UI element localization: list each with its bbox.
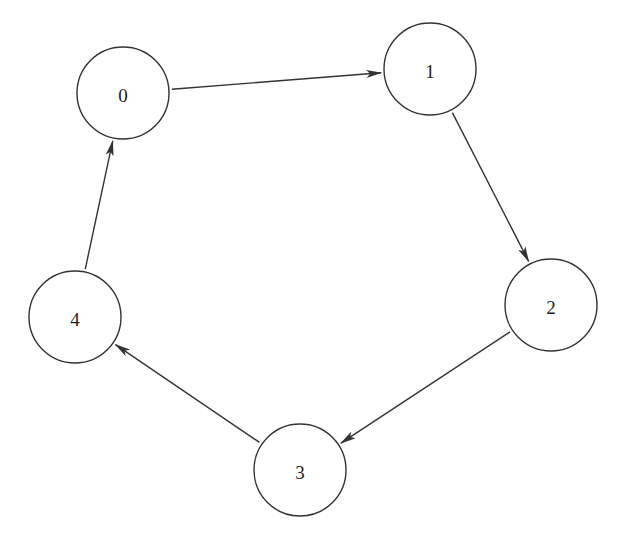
node-1[interactable]: 1: [384, 23, 476, 115]
node-4-label: 4: [70, 309, 80, 330]
node-1-label: 1: [425, 61, 435, 82]
graph-canvas: 0 1 2 3 4: [0, 0, 620, 541]
node-4[interactable]: 4: [29, 271, 121, 363]
edge-0-to-1: [172, 73, 381, 89]
node-0-label: 0: [118, 85, 128, 106]
edge-2-to-3: [341, 332, 510, 443]
node-0[interactable]: 0: [77, 47, 169, 139]
node-2[interactable]: 2: [505, 259, 597, 351]
node-3[interactable]: 3: [254, 424, 346, 516]
node-2-label: 2: [546, 297, 556, 318]
edge-1-to-2: [452, 113, 528, 262]
node-3-label: 3: [295, 462, 305, 483]
edge-4-to-0: [85, 141, 112, 269]
nodes-group: 0 1 2 3 4: [29, 23, 597, 516]
edge-3-to-4: [116, 345, 260, 443]
